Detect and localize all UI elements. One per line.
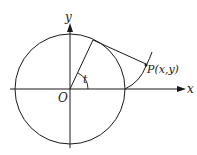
angle-label: t [83, 73, 88, 86]
y-axis-arrow-icon [67, 23, 73, 32]
x-axis-arrow-icon [177, 86, 186, 92]
tangent-line [93, 40, 146, 64]
origin-label: O [58, 91, 68, 105]
y-axis-label: y [64, 10, 72, 24]
x-axis-label: x [187, 82, 194, 96]
radius-line [70, 40, 93, 89]
point-label: P(x,y) [146, 63, 179, 76]
involute-diagram: y x O t P(x,y) [0, 0, 197, 155]
